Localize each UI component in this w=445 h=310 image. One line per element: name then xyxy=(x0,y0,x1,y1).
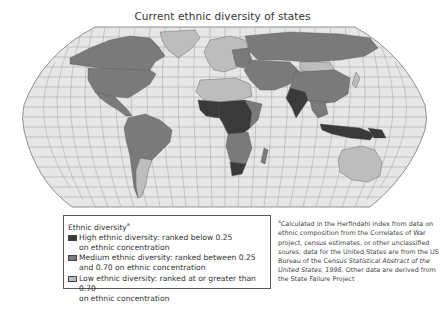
legend-box: Ethnic diversitya High ethnic diversity:… xyxy=(63,215,271,289)
legend-item-medium: Medium ethnic diversity: ranked between … xyxy=(68,253,266,273)
world-map xyxy=(0,0,445,215)
legend-heading: Ethnic diversitya xyxy=(68,219,266,233)
legend-swatch-high xyxy=(68,235,77,241)
legend-item-low: Low ethnic diversity: ranked at or great… xyxy=(68,274,266,305)
footnote: aCalculated in the Herfindahl index from… xyxy=(278,217,443,285)
legend-swatch-low xyxy=(68,276,77,282)
north-africa xyxy=(196,78,252,102)
legend-swatch-medium xyxy=(68,255,77,261)
legend-item-high: High ethnic diversity: ranked below 0.25… xyxy=(68,233,266,253)
